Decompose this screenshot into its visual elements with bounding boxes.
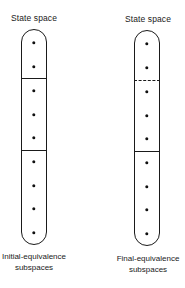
state-dot bbox=[145, 90, 148, 93]
state-dot bbox=[145, 185, 148, 188]
final-state-space-title: State space bbox=[103, 14, 185, 24]
final-caption-line-1: Final-equivalence bbox=[103, 253, 185, 264]
state-dot bbox=[145, 42, 148, 45]
final-divider-solid-2 bbox=[134, 151, 160, 152]
final-caption-line-2: subspaces bbox=[103, 264, 185, 275]
initial-caption-line-1: Initial-equivalence bbox=[0, 251, 79, 262]
state-dot bbox=[145, 137, 148, 140]
initial-equivalence-caption: Initial-equivalence subspaces bbox=[0, 251, 79, 273]
state-dot bbox=[32, 207, 35, 210]
state-dot bbox=[32, 113, 35, 116]
final-state-space-column: State space Final-equivalence subspaces bbox=[95, 0, 185, 288]
initial-state-space-capsule bbox=[21, 29, 47, 245]
state-dot bbox=[32, 65, 35, 68]
initial-state-space-title: State space bbox=[0, 13, 79, 23]
initial-caption-line-2: subspaces bbox=[0, 262, 79, 273]
state-dot bbox=[32, 136, 35, 139]
final-state-space-capsule bbox=[134, 30, 160, 246]
state-dot bbox=[32, 89, 35, 92]
initial-state-space-column: State space Initial-equivalence subspace… bbox=[0, 0, 90, 288]
final-divider-dashed-1 bbox=[134, 80, 160, 81]
initial-divider-solid-1 bbox=[21, 78, 47, 79]
state-dot bbox=[145, 161, 148, 164]
state-dot bbox=[32, 41, 35, 44]
final-equivalence-caption: Final-equivalence subspaces bbox=[103, 253, 185, 275]
state-dot bbox=[145, 114, 148, 117]
state-dot bbox=[32, 231, 35, 234]
state-dot bbox=[145, 208, 148, 211]
state-dot bbox=[32, 184, 35, 187]
state-dot bbox=[145, 66, 148, 69]
state-dot bbox=[145, 232, 148, 235]
initial-divider-solid-2 bbox=[21, 150, 47, 151]
state-dot bbox=[32, 160, 35, 163]
